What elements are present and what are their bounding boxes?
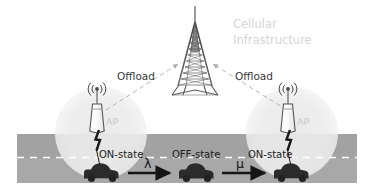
cell-tower-icon	[172, 6, 218, 95]
diagram-canvas	[0, 0, 374, 194]
ap-body	[281, 104, 295, 133]
offload-link-left	[106, 64, 178, 110]
ap-body	[90, 104, 104, 133]
offloading-diagram: Cellular Infrastructure Offload Offload …	[0, 0, 374, 194]
